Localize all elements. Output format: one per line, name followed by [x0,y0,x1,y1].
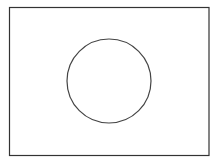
circle-shape [67,39,151,123]
rectangle-frame [10,8,210,156]
diagram-canvas [0,0,220,162]
